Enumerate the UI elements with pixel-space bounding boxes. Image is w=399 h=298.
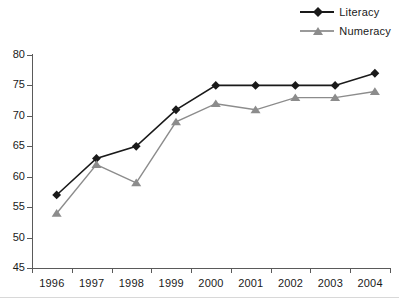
triangle-marker-icon	[131, 179, 141, 187]
diamond-marker-icon	[291, 81, 300, 90]
triangle-marker-icon	[370, 87, 380, 95]
triangle-marker-icon	[171, 118, 181, 126]
series-literacy	[52, 69, 379, 200]
triangle-marker-icon	[52, 209, 62, 217]
diamond-marker-icon	[211, 81, 220, 90]
triangle-marker-icon	[211, 100, 221, 108]
diamond-marker-icon	[251, 81, 260, 90]
series-numeracy	[52, 87, 380, 216]
diamond-marker-icon	[331, 81, 340, 90]
series-line	[57, 92, 375, 214]
line-chart: Literacy Numeracy 8075706560555045 19961…	[0, 0, 399, 298]
diamond-marker-icon	[370, 69, 379, 78]
series-line	[57, 73, 375, 195]
series-plot	[0, 0, 399, 298]
